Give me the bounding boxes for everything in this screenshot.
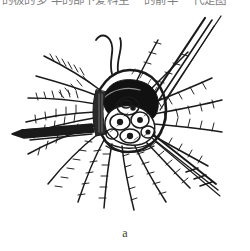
left-shaded-column <box>93 90 106 136</box>
apical-tendril <box>96 36 121 75</box>
scanned-page: 的极的多 半的部下爱科生 一的前半 一代是图 <box>0 0 250 251</box>
figure-illustration <box>0 12 250 224</box>
figure-caption: a <box>0 226 250 241</box>
ink-drawing-svg <box>0 12 250 224</box>
cropped-header-line: 的极的多 半的部下爱科生 一的前半 一代是图 <box>2 0 248 7</box>
cropped-header-text: 的极的多 半的部下爱科生 一的前半 一代是图 <box>0 0 250 11</box>
drawing-ink <box>12 16 222 210</box>
